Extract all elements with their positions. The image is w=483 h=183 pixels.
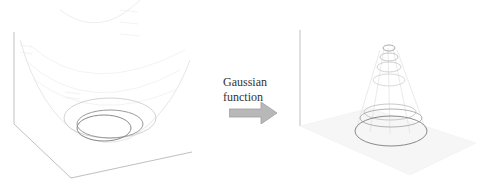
right-arrow-icon — [229, 102, 279, 124]
label-line-1: Gaussian — [223, 75, 267, 90]
gaussian-plot — [280, 0, 483, 183]
transform-label: Gaussian function — [223, 75, 267, 105]
paraboloid-plot — [0, 0, 200, 183]
